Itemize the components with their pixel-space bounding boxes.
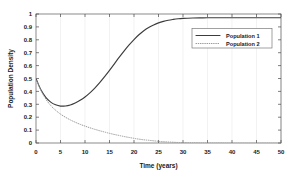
figure-background xyxy=(0,0,292,174)
y-tick-label: 0.6 xyxy=(24,63,33,69)
y-tick-label: 0.7 xyxy=(24,50,33,56)
y-tick-label: 0.4 xyxy=(24,89,33,95)
x-tick-label: 45 xyxy=(253,149,260,155)
x-tick-label: 10 xyxy=(82,149,89,155)
population-density-line-chart: 05101520253035404550 00.10.20.30.40.50.6… xyxy=(0,0,292,174)
x-tick-label: 20 xyxy=(131,149,138,155)
legend-label-1: Population 1 xyxy=(226,33,260,39)
x-tick-label: 15 xyxy=(106,149,113,155)
y-tick-label: 0.3 xyxy=(24,102,33,108)
y-tick-label: 0.5 xyxy=(24,76,33,82)
y-tick-label: 0.1 xyxy=(24,127,33,133)
y-tick-label: 0.9 xyxy=(24,24,33,30)
chart-figure: 05101520253035404550 00.10.20.30.40.50.6… xyxy=(0,0,292,174)
x-axis-title: Time (years) xyxy=(139,162,177,170)
x-tick-label: 40 xyxy=(229,149,236,155)
x-tick-label: 35 xyxy=(204,149,211,155)
chart-legend[interactable]: Population 1Population 2 xyxy=(192,29,272,49)
y-tick-label: 0.2 xyxy=(24,114,33,120)
x-tick-label: 25 xyxy=(155,149,162,155)
x-tick-label: 50 xyxy=(278,149,285,155)
legend-label-2: Population 2 xyxy=(226,41,260,47)
y-tick-label: 0.8 xyxy=(24,37,33,43)
x-tick-label: 30 xyxy=(180,149,187,155)
y-axis-title: Population Density xyxy=(7,49,15,108)
